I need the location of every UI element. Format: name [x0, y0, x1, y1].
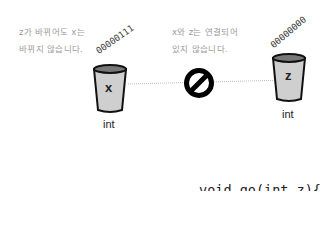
- var-x-type: int: [103, 118, 115, 130]
- code-block: void go(int z){ z = 0; }: [199, 128, 321, 191]
- var-x-name: x: [105, 80, 112, 95]
- no-sign-icon: [183, 67, 215, 99]
- code-line: void go(int z){: [199, 178, 321, 191]
- var-z-name: z: [285, 68, 292, 83]
- var-z-type: int: [282, 108, 294, 120]
